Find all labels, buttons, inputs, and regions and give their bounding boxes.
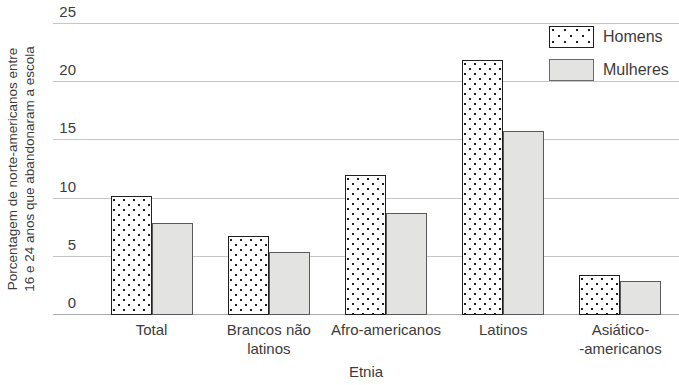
bar-homens-3 bbox=[462, 60, 503, 315]
bar-mulheres-1 bbox=[269, 252, 310, 315]
bar-homens-1 bbox=[228, 236, 269, 315]
bar-mulheres-3 bbox=[503, 131, 544, 315]
x-label-3: Latinos bbox=[445, 320, 562, 358]
x-axis-title: Etnia bbox=[53, 363, 679, 380]
y-axis-title-line2: 16 e 24 anos que abandonaram a escola bbox=[21, 2, 38, 336]
x-category-labels: TotalBrancos não latinosAfro-americanosL… bbox=[93, 320, 679, 358]
x-label-2: Afro-americanos bbox=[327, 320, 444, 358]
legend-label-homens: Homens bbox=[603, 28, 663, 46]
y-tick-label-5: 5 bbox=[6, 236, 76, 254]
x-label-1: Brancos não latinos bbox=[210, 320, 327, 358]
y-axis-title: Porcentagem de norte-americanos entre 16… bbox=[4, 2, 40, 336]
y-tick-label-15: 15 bbox=[6, 119, 76, 137]
bar-group-1 bbox=[210, 24, 327, 315]
legend-label-mulheres: Mulheres bbox=[603, 61, 669, 79]
bar-mulheres-4 bbox=[620, 281, 661, 315]
legend-item-mulheres: Mulheres bbox=[549, 59, 669, 81]
y-tick-label-25: 25 bbox=[6, 3, 76, 21]
bar-pair-2 bbox=[345, 175, 427, 315]
y-tick-label-20: 20 bbox=[6, 61, 76, 79]
bar-homens-0 bbox=[111, 196, 152, 315]
bar-homens-2 bbox=[345, 175, 386, 315]
bar-group-2 bbox=[327, 24, 444, 315]
legend-item-homens: Homens bbox=[549, 26, 669, 48]
y-tick-label-0: 0 bbox=[6, 294, 76, 312]
x-label-4: Asiático- -americanos bbox=[562, 320, 679, 358]
legend-swatch-mulheres-icon bbox=[549, 59, 594, 81]
bar-pair-0 bbox=[111, 196, 193, 315]
x-label-0: Total bbox=[93, 320, 210, 358]
bar-group-0 bbox=[93, 24, 210, 315]
bar-homens-4 bbox=[579, 275, 620, 315]
legend-swatch-homens-icon bbox=[549, 26, 594, 48]
bar-pair-1 bbox=[228, 236, 310, 315]
bar-group-3 bbox=[445, 24, 562, 315]
bar-pair-4 bbox=[579, 275, 661, 315]
y-axis-title-line1: Porcentagem de norte-americanos entre bbox=[4, 2, 21, 336]
bar-pair-3 bbox=[462, 60, 544, 315]
bar-mulheres-2 bbox=[386, 213, 427, 315]
dropout-rate-bar-chart: Porcentagem de norte-americanos entre 16… bbox=[0, 0, 679, 385]
legend: HomensMulheres bbox=[549, 26, 669, 92]
bar-mulheres-0 bbox=[152, 223, 193, 315]
y-tick-label-10: 10 bbox=[6, 178, 76, 196]
